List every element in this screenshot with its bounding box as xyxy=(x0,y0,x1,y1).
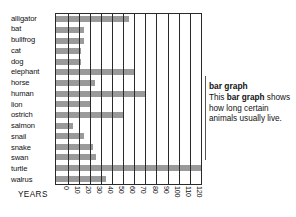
value-tick-0: 0 xyxy=(62,186,69,190)
caption-title: bar graph xyxy=(209,81,293,92)
category-label: turtle xyxy=(11,164,55,175)
caption-body: This bar graph shows how long certain an… xyxy=(209,93,293,126)
bar-turtle xyxy=(56,165,201,171)
bar-row xyxy=(56,99,201,110)
bar-row xyxy=(56,25,201,36)
value-axis-title: YEARS xyxy=(18,190,48,199)
bar-horse xyxy=(56,80,95,86)
bar-lion xyxy=(56,101,90,107)
category-label: snail xyxy=(11,131,55,142)
value-tick-100: 100 xyxy=(173,186,180,197)
plot-area xyxy=(55,13,202,185)
value-tick-110: 110 xyxy=(185,186,192,197)
bar-salmon xyxy=(56,123,73,129)
value-tick-40: 40 xyxy=(107,186,114,194)
bar-row xyxy=(56,152,201,163)
category-label: cat xyxy=(11,45,55,56)
category-label: walrus xyxy=(11,174,55,185)
category-label: bullfrog xyxy=(11,35,55,46)
category-label: dog xyxy=(11,56,55,67)
category-label: bat xyxy=(11,24,55,35)
bar-row xyxy=(56,78,201,89)
bar-bullfrog xyxy=(56,38,84,44)
category-label: salmon xyxy=(11,121,55,132)
bar-row xyxy=(56,110,201,121)
value-tick-80: 80 xyxy=(151,186,158,194)
value-axis-ticks: 0102030405060708090100110120 xyxy=(55,186,202,216)
bar-human xyxy=(56,91,145,97)
caption-text-before: This xyxy=(209,93,227,102)
bar-alligator xyxy=(56,16,129,22)
value-tick-70: 70 xyxy=(140,186,147,194)
bar-row xyxy=(56,88,201,99)
category-label: swan xyxy=(11,153,55,164)
bar-cat xyxy=(56,48,81,54)
bar-elephant xyxy=(56,69,134,75)
bar-snake xyxy=(56,144,93,150)
caption-text-bold: bar graph xyxy=(227,93,265,102)
value-tick-10: 10 xyxy=(74,186,81,194)
value-tick-50: 50 xyxy=(118,186,125,194)
bar-row xyxy=(56,120,201,131)
bar-swan xyxy=(56,154,96,160)
bar-bat xyxy=(56,27,84,33)
value-tick-120: 120 xyxy=(196,186,203,197)
value-tick-20: 20 xyxy=(85,186,92,194)
category-label: snake xyxy=(11,142,55,153)
bar-ostrich xyxy=(56,112,123,118)
bar-snail xyxy=(56,133,84,139)
category-label: lion xyxy=(11,99,55,110)
caption-panel: bar graph This bar graph shows how long … xyxy=(209,81,293,125)
category-label: alligator xyxy=(11,13,55,24)
bar-row xyxy=(56,163,201,174)
bar-row xyxy=(56,142,201,153)
category-axis-labels: alligatorbatbullfrogcatdogelephanthorseh… xyxy=(11,13,55,185)
bar-graph-figure: alligatorbatbullfrogcatdogelephanthorseh… xyxy=(0,0,296,217)
bar-row xyxy=(56,35,201,46)
value-tick-30: 30 xyxy=(96,186,103,194)
bar-row xyxy=(56,173,201,184)
category-label: human xyxy=(11,88,55,99)
bar-walrus xyxy=(56,176,106,182)
bar-row xyxy=(56,14,201,25)
bar-series xyxy=(56,14,201,184)
bar-row xyxy=(56,131,201,142)
value-tick-60: 60 xyxy=(129,186,136,194)
category-label: ostrich xyxy=(11,110,55,121)
bar-row xyxy=(56,46,201,57)
value-tick-90: 90 xyxy=(162,186,169,194)
bar-row xyxy=(56,57,201,68)
category-label: horse xyxy=(11,78,55,89)
caption-divider xyxy=(205,76,206,160)
bar-dog xyxy=(56,59,81,65)
category-label: elephant xyxy=(11,67,55,78)
bar-row xyxy=(56,67,201,78)
